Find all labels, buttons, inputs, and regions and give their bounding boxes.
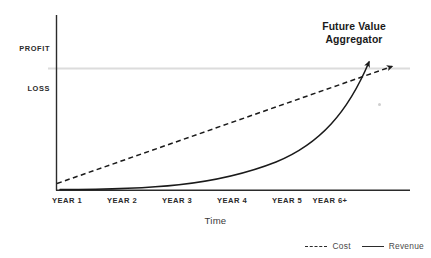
legend-swatch-solid-icon <box>362 246 384 247</box>
chart-annotation-callout: Future Value Aggregator <box>300 21 408 46</box>
x-tick-label-year-6-plus: YEAR 6+ <box>300 196 360 205</box>
annotation-line-1: Future Value <box>322 21 386 32</box>
image-speck-artifact <box>378 103 381 106</box>
legend-label-revenue: Revenue <box>389 241 424 251</box>
x-tick-label-year-2: YEAR 2 <box>92 196 152 205</box>
legend-item-cost: Cost <box>305 241 350 251</box>
chart-container: PROFIT LOSS YEAR 1 YEAR 2 YEAR 3 YEAR 4 … <box>0 0 431 258</box>
y-band-label-loss: LOSS <box>4 84 50 93</box>
legend-label-cost: Cost <box>332 241 350 251</box>
series-line-revenue <box>60 62 369 190</box>
x-tick-label-year-4: YEAR 4 <box>202 196 262 205</box>
legend-swatch-dashed-icon <box>305 246 327 247</box>
x-tick-label-year-1: YEAR 1 <box>37 196 97 205</box>
annotation-line-2: Aggregator <box>326 34 383 45</box>
chart-legend: Cost Revenue <box>272 238 424 254</box>
x-tick-label-year-3: YEAR 3 <box>147 196 207 205</box>
series-line-cost <box>57 66 392 183</box>
x-axis-title: Time <box>0 215 431 226</box>
y-band-label-profit: PROFIT <box>4 44 50 53</box>
legend-item-revenue: Revenue <box>362 241 424 251</box>
